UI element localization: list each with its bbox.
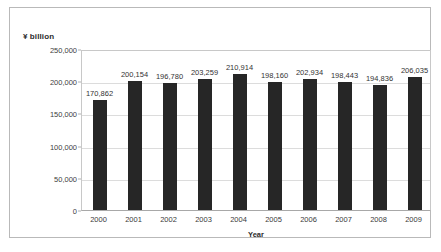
x-tick-label: 2007 [326, 215, 361, 224]
x-tick-label: 2009 [396, 215, 431, 224]
x-tick-label: 2003 [186, 215, 221, 224]
plot-area: 170,862200,154196,780203,259210,914198,1… [81, 50, 431, 211]
bar-group: 210,914 [222, 51, 257, 210]
chart-frame: ¥ billion 050,000100,000150,000200,00025… [9, 7, 431, 238]
bar[interactable] [128, 81, 142, 210]
bar-value-label: 170,862 [86, 89, 113, 98]
y-axis-title: ¥ billion [23, 32, 54, 41]
x-tick-label: 2001 [116, 215, 151, 224]
bar-value-label: 210,914 [226, 63, 253, 72]
y-tick-label: 200,000 [33, 78, 77, 87]
bar-value-label: 194,836 [366, 74, 393, 83]
bar[interactable] [233, 74, 247, 210]
bar[interactable] [373, 85, 387, 210]
bar[interactable] [93, 100, 107, 210]
bar[interactable] [303, 79, 317, 210]
x-axis-title: Year [81, 230, 431, 239]
y-tick-label: 50,000 [33, 174, 77, 183]
bar-value-label: 198,160 [261, 71, 288, 80]
bar[interactable] [198, 79, 212, 210]
y-tick-label: 100,000 [33, 142, 77, 151]
bar-value-label: 203,259 [191, 68, 218, 77]
x-tick-label: 2004 [221, 215, 256, 224]
x-tick-label: 2005 [256, 215, 291, 224]
bar-group: 203,259 [187, 51, 222, 210]
bar-group: 198,160 [257, 51, 292, 210]
bar[interactable] [338, 82, 352, 210]
bar-group: 200,154 [117, 51, 152, 210]
bar-group: 170,862 [82, 51, 117, 210]
y-tick-label: 150,000 [33, 110, 77, 119]
bar-group: 196,780 [152, 51, 187, 210]
bar-value-label: 202,934 [296, 68, 323, 77]
y-tick-label: 250,000 [33, 46, 77, 55]
x-tick-label: 2000 [81, 215, 116, 224]
bar-value-label: 206,035 [401, 66, 428, 75]
bar[interactable] [408, 77, 422, 210]
bar-group: 202,934 [292, 51, 327, 210]
y-axis-tick-labels: 050,000100,000150,000200,000250,000 [30, 50, 77, 211]
x-tick-label: 2008 [361, 215, 396, 224]
bar-value-label: 200,154 [121, 70, 148, 79]
x-tick-label: 2006 [291, 215, 326, 224]
bar-group: 206,035 [397, 51, 432, 210]
x-tick-label: 2002 [151, 215, 186, 224]
x-axis-tick-labels: 2000200120022003200420052006200720082009 [81, 215, 431, 229]
y-tick-label: 0 [33, 207, 77, 216]
bar-value-label: 196,780 [156, 72, 183, 81]
bar-value-label: 198,443 [331, 71, 358, 80]
bar-group: 198,443 [327, 51, 362, 210]
bar-group: 194,836 [362, 51, 397, 210]
bar[interactable] [163, 83, 177, 210]
bar[interactable] [268, 82, 282, 210]
